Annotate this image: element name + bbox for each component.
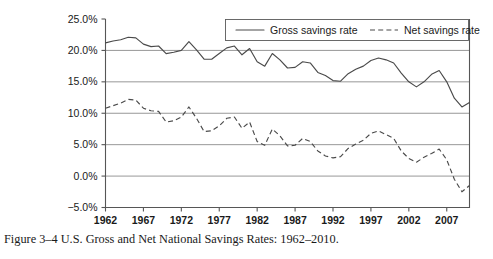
x-tick-labels: 1962196719721977198219871992199720022007: [94, 214, 459, 226]
axis-ticks: [102, 19, 447, 212]
y-tick-label: 25.0%: [68, 13, 98, 25]
y-tick-label: 10.0%: [68, 107, 98, 119]
legend-label-net: Net savings rate: [404, 24, 480, 36]
x-tick-label: 2002: [397, 214, 421, 226]
x-tick-label: 2007: [435, 214, 459, 226]
x-tick-label: 1987: [283, 214, 307, 226]
x-tick-label: 1982: [245, 214, 269, 226]
x-tick-label: 1997: [359, 214, 383, 226]
x-tick-label: 1992: [321, 214, 345, 226]
savings-rates-line-chart: 25.0%20.0%15.0%10.0%5.0%0.0%−5.0% 196219…: [0, 0, 493, 228]
y-tick-label: 5.0%: [74, 138, 98, 150]
x-tick-label: 1972: [170, 214, 194, 226]
chart-plot-area: 25.0%20.0%15.0%10.0%5.0%0.0%−5.0% 196219…: [0, 0, 493, 228]
y-tick-label: 15.0%: [68, 75, 98, 87]
chart-legend: Gross savings rate Net savings rate: [226, 20, 481, 41]
figure-container: 25.0%20.0%15.0%10.0%5.0%0.0%−5.0% 196219…: [0, 0, 493, 259]
gross-savings-rate-line: [106, 37, 470, 107]
figure-caption: Figure 3–4 U.S. Gross and Net National S…: [4, 232, 490, 247]
y-tick-labels: 25.0%20.0%15.0%10.0%5.0%0.0%−5.0%: [67, 13, 97, 214]
x-tick-label: 1962: [94, 214, 118, 226]
y-tick-label: 0.0%: [74, 170, 98, 182]
x-tick-label: 1977: [208, 214, 232, 226]
x-tick-label: 1967: [132, 214, 156, 226]
y-tick-label: 20.0%: [68, 44, 98, 56]
legend-label-gross: Gross savings rate: [270, 24, 358, 36]
y-tick-label: −5.0%: [67, 201, 97, 213]
